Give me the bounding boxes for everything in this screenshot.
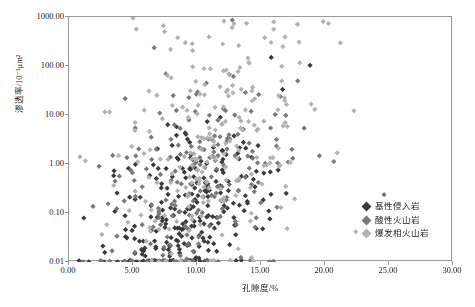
legend-item-label: 基性侵入岩 (375, 200, 420, 214)
plot-area: 基性侵入岩酸性火山岩爆发相火山岩 (68, 16, 452, 261)
x-axis-title: 孔隙度/% (68, 281, 452, 293)
legend-diamond-icon (362, 229, 372, 239)
x-tick-label: 5.00 (102, 265, 162, 275)
x-tick-label: 15.00 (230, 265, 290, 275)
x-tick-label: 30.00 (422, 265, 475, 275)
legend-item[interactable]: 基性侵入岩 (363, 200, 429, 214)
x-tick-label: 20.00 (294, 265, 354, 275)
x-tick-label: 0.00 (38, 265, 98, 275)
legend-item[interactable]: 酸性火山岩 (363, 214, 429, 228)
x-tick-mark (388, 261, 389, 265)
legend-diamond-icon (362, 215, 372, 225)
y-axis-title: 渗透率/10⁻³μm² (12, 14, 24, 154)
y-tick-label: 1.00 (18, 158, 64, 168)
scatter-chart-figure: 渗透率/10⁻³μm² 0.010.101.0010.00100.001000.… (0, 0, 475, 307)
x-tick-mark (452, 261, 453, 265)
x-tick-label: 10.00 (166, 265, 226, 275)
y-tick-label: 10.00 (18, 109, 64, 119)
x-tick-label: 25.00 (358, 265, 418, 275)
y-tick-label: 1000.00 (18, 11, 64, 21)
legend-item-label: 爆发相火山岩 (375, 227, 429, 241)
x-tick-mark (324, 261, 325, 265)
y-tick-label: 0.10 (18, 207, 64, 217)
x-tick-mark (68, 261, 69, 265)
legend-item[interactable]: 爆发相火山岩 (363, 227, 429, 241)
x-tick-mark (196, 261, 197, 265)
y-tick-label: 100.00 (18, 60, 64, 70)
legend-item-label: 酸性火山岩 (375, 214, 420, 228)
legend-diamond-icon (362, 202, 372, 212)
x-tick-mark (260, 261, 261, 265)
x-tick-mark (132, 261, 133, 265)
legend: 基性侵入岩酸性火山岩爆发相火山岩 (363, 200, 429, 241)
